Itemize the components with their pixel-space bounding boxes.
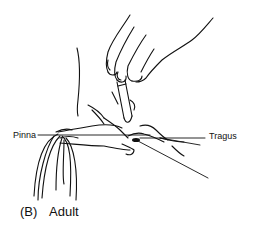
figure-caption-letter: (B) [20, 205, 37, 218]
upper-hand-drawing [77, 15, 213, 122]
tragus-leader-line-lower [160, 138, 200, 145]
lower-hand-drawing [58, 105, 184, 156]
hand-ear-illustration [0, 0, 262, 230]
pinna-label: Pinna [13, 131, 36, 140]
figure-caption-text: Adult [49, 205, 79, 218]
hair-strands-drawing [34, 129, 78, 200]
diagram-canvas: Pinna Tragus (B) Adult [0, 0, 262, 230]
tragus-label: Tragus [209, 132, 237, 141]
